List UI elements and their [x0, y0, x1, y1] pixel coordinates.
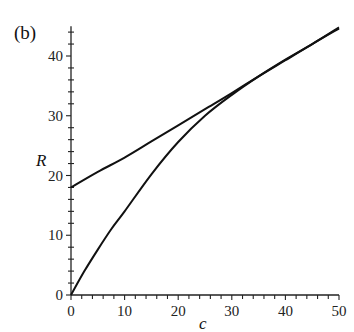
y-tick-label: 0 [56, 287, 64, 303]
y-tick-label: 20 [48, 168, 63, 184]
y-tick-label: 40 [48, 48, 63, 64]
axes: 01020304001020304050 [48, 26, 347, 319]
y-tick-label: 30 [48, 108, 63, 124]
curves [71, 27, 339, 295]
plot-area: 01020304001020304050 [0, 0, 354, 332]
x-tick-label: 10 [117, 303, 132, 319]
lower-curve [71, 27, 339, 295]
x-tick-label: 0 [67, 303, 75, 319]
x-tick-label: 20 [171, 303, 186, 319]
x-tick-label: 30 [224, 303, 239, 319]
x-tick-label: 40 [278, 303, 293, 319]
y-tick-label: 10 [48, 227, 63, 243]
x-tick-label: 50 [332, 303, 347, 319]
